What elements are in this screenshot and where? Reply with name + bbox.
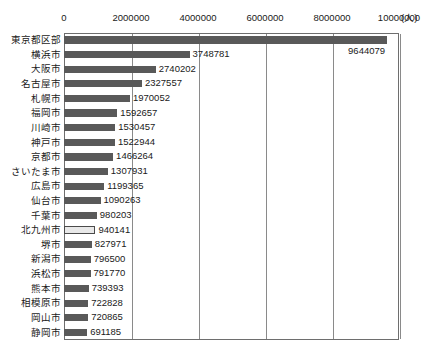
x-tick-label-6000000: 6000000 bbox=[247, 12, 284, 24]
bar-value-label: 1970052 bbox=[133, 92, 170, 104]
bar bbox=[64, 80, 142, 87]
bars-layer: 9644079374878127402022327557197005215926… bbox=[64, 33, 399, 340]
bar bbox=[64, 329, 87, 336]
bar bbox=[64, 109, 117, 116]
bar-row: 1522944 bbox=[64, 135, 399, 149]
category-label: 千葉市 bbox=[31, 211, 61, 221]
bar-value-label: 691185 bbox=[90, 326, 121, 338]
bar-value-label: 2740202 bbox=[159, 63, 196, 75]
bar-value-label: 739393 bbox=[92, 282, 124, 294]
category-label: 静岡市 bbox=[31, 328, 61, 338]
category-label: 熊本市 bbox=[31, 284, 61, 294]
bar bbox=[64, 95, 130, 102]
bar-row: 1466264 bbox=[64, 150, 399, 164]
bar-row: 1530457 bbox=[64, 121, 399, 135]
bar-value-label: 791770 bbox=[94, 267, 126, 279]
bar bbox=[64, 66, 156, 73]
bar bbox=[64, 241, 92, 248]
category-label: 名古屋市 bbox=[21, 79, 61, 89]
category-label: 福岡市 bbox=[31, 108, 61, 118]
category-label: さいたま市 bbox=[11, 167, 61, 177]
bar-row: 796500 bbox=[64, 252, 399, 266]
bar-row: 1199365 bbox=[64, 179, 399, 193]
bar-row: 827971 bbox=[64, 238, 399, 252]
category-label: 東京都区部 bbox=[11, 35, 61, 45]
bar bbox=[64, 168, 108, 175]
category-label: 川崎市 bbox=[31, 123, 61, 133]
bar-row: 3748781 bbox=[64, 48, 399, 62]
bar-row: 1307931 bbox=[64, 165, 399, 179]
bar-row: 1970052 bbox=[64, 91, 399, 105]
x-tick-label-2000000: 2000000 bbox=[113, 12, 150, 24]
bar-row: 980203 bbox=[64, 208, 399, 222]
bar bbox=[64, 212, 97, 219]
x-axis-tick-labels: 0200000040000006000000800000010000000(人) bbox=[0, 12, 428, 26]
bar-row: 791770 bbox=[64, 267, 399, 281]
bar-row: 1592657 bbox=[64, 106, 399, 120]
category-label: 仙台市 bbox=[31, 196, 61, 206]
x-tick-label-8000000: 8000000 bbox=[314, 12, 351, 24]
bar bbox=[64, 270, 91, 277]
population-bar-chart: 0200000040000006000000800000010000000(人)… bbox=[0, 0, 428, 352]
category-label: 京都市 bbox=[31, 152, 61, 162]
bar bbox=[64, 153, 113, 160]
category-label: 札幌市 bbox=[31, 94, 61, 104]
category-label: 新潟市 bbox=[31, 254, 61, 264]
bar bbox=[64, 36, 387, 43]
bar-value-label: 796500 bbox=[94, 253, 126, 265]
gridline-10000000 bbox=[400, 34, 401, 339]
bar-value-label: 1522944 bbox=[118, 136, 155, 148]
bar-value-label: 2327557 bbox=[145, 77, 182, 89]
bar-value-label: 1090263 bbox=[104, 194, 141, 206]
x-axis-unit-label: (人) bbox=[401, 12, 417, 24]
category-label: 北九州市 bbox=[21, 225, 61, 235]
bar bbox=[64, 183, 104, 190]
category-label: 相模原市 bbox=[21, 298, 61, 308]
bar bbox=[64, 51, 190, 58]
bar-value-label: 720865 bbox=[91, 311, 123, 323]
bar bbox=[64, 314, 88, 321]
bar-value-label: 1592657 bbox=[120, 107, 157, 119]
category-label: 浜松市 bbox=[31, 269, 61, 279]
bar bbox=[64, 139, 115, 146]
bar-row: 2327557 bbox=[64, 77, 399, 91]
bar-value-label: 3748781 bbox=[193, 48, 230, 60]
x-tick-label-0: 0 bbox=[61, 12, 66, 24]
bar bbox=[64, 197, 101, 204]
bar-row: 9644079 bbox=[64, 33, 399, 47]
category-label: 広島市 bbox=[31, 181, 61, 191]
bar bbox=[64, 300, 88, 307]
bar-value-label: 1530457 bbox=[118, 121, 155, 133]
bar-value-label: 1199365 bbox=[107, 180, 143, 192]
category-label: 岡山市 bbox=[31, 313, 61, 323]
bar-row: 739393 bbox=[64, 282, 399, 296]
bar bbox=[64, 285, 89, 292]
category-label: 堺市 bbox=[41, 240, 61, 250]
category-label: 大阪市 bbox=[31, 64, 61, 74]
bar-value-label: 722828 bbox=[91, 297, 123, 309]
bar-row: 2740202 bbox=[64, 62, 399, 76]
bar-row: 691185 bbox=[64, 325, 399, 339]
y-axis-category-labels: 東京都区部横浜市大阪市名古屋市札幌市福岡市川崎市神戸市京都市さいたま市広島市仙台… bbox=[0, 33, 61, 340]
bar-row: 1090263 bbox=[64, 194, 399, 208]
category-label: 神戸市 bbox=[31, 138, 61, 148]
bar-value-label: 940141 bbox=[98, 224, 130, 236]
bar-highlighted bbox=[64, 226, 95, 233]
bar-value-label: 1466264 bbox=[116, 150, 153, 162]
bar-row: 720865 bbox=[64, 311, 399, 325]
bar-row: 722828 bbox=[64, 296, 399, 310]
category-label: 横浜市 bbox=[31, 50, 61, 60]
bar-value-label: 980203 bbox=[100, 209, 132, 221]
bar-row: 940141 bbox=[64, 223, 399, 237]
bar-value-label: 827971 bbox=[95, 238, 127, 250]
bar bbox=[64, 256, 91, 263]
bar bbox=[64, 124, 115, 131]
x-tick-label-4000000: 4000000 bbox=[180, 12, 217, 24]
bar-value-label: 1307931 bbox=[111, 165, 148, 177]
